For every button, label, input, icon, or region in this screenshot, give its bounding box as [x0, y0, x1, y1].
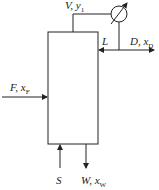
reflux-label: L [101, 35, 108, 47]
distillation-diagram: V, y1 L D, xD F, xF S W, xW [0, 0, 159, 190]
steam-label: S [56, 174, 62, 186]
distillate-label: D, xD [129, 35, 153, 50]
feed-label: F, xF [9, 81, 30, 96]
vapor-label: V, y1 [65, 0, 85, 14]
column [48, 32, 98, 144]
condenser-icon [111, 3, 127, 24]
bottoms-label: W, xW [81, 174, 107, 189]
vapor-line [73, 14, 111, 32]
